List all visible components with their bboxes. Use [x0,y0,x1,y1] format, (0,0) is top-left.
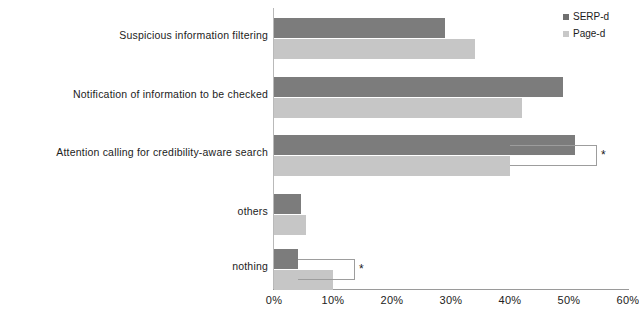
category-label-nothing: nothing [0,260,268,272]
x-tick-label-60pct: 60% [617,294,639,306]
x-tick-label-40pct: 40% [499,294,522,306]
bar-page-d-attention-calling-for-credibility-aware-search [274,156,510,176]
significance-star: * [601,149,606,161]
bar-page-d-suspicious-information-filtering [274,39,475,59]
legend-swatch-icon-serp-d [563,14,569,20]
legend-label-serp-d: SERP-d [573,11,609,22]
bar-serp-d-notification-of-information-to-be-checked [274,77,563,97]
x-tick-label-30pct: 30% [440,294,463,306]
legend-swatch-icon-page-d [563,31,569,37]
bar-serp-d-others [274,194,301,214]
category-label-attention-calling-for-credibility-aware-search: Attention calling for credibility-aware … [0,146,268,158]
legend-label-page-d: Page-d [573,28,605,39]
bar-page-d-others [274,215,306,235]
bar-serp-d-nothing [274,249,298,269]
x-tick-label-0pct: 0% [266,294,283,306]
category-label-notification-of-information-to-be-checked: Notification of information to be checke… [0,88,268,100]
x-tick-label-20pct: 20% [381,294,404,306]
significance-bracket [510,145,597,166]
bar-chart: Suspicious information filtering Notific… [0,0,639,315]
x-tick-label-50pct: 50% [558,294,581,306]
category-label-suspicious-information-filtering: Suspicious information filtering [0,29,268,41]
bar-page-d-notification-of-information-to-be-checked [274,98,522,118]
category-label-others: others [0,205,268,217]
bar-serp-d-suspicious-information-filtering [274,18,445,38]
significance-star: * [359,263,364,275]
x-tick-label-10pct: 10% [322,294,345,306]
significance-bracket [298,259,355,280]
legend-item-page-d: Page-d [563,25,609,42]
legend-item-serp-d: SERP-d [563,8,609,25]
legend: SERP-d Page-d [563,8,609,42]
